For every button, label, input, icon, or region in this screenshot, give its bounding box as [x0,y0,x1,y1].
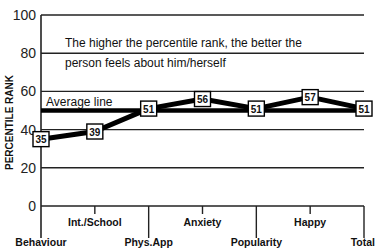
data-point-marker: 57 [302,90,318,105]
y-tick-0: 0 [28,198,36,214]
svg-text:56: 56 [197,94,209,105]
percentile-rank-chart: 020406080100 BehaviourInt./SchoolPhys.Ap… [0,0,378,251]
x-tick-label: Happy [294,216,326,228]
average-line-label: Average line [46,95,113,109]
y-tick-20: 20 [20,160,36,176]
x-tick-label: Popularity [231,236,283,248]
x-tick-label: Total [351,236,375,248]
y-tick-100: 100 [13,7,37,23]
x-tick-label: Anxiety [184,216,222,228]
svg-text:51: 51 [358,104,370,115]
data-point-marker: 51 [356,101,372,116]
x-tick-label: Behaviour [15,236,66,248]
svg-text:51: 51 [143,104,155,115]
y-tick-labels: 020406080100 [13,7,37,214]
data-point-marker: 56 [195,92,211,107]
x-tick-labels: BehaviourInt./SchoolPhys.AppAnxietyPopul… [15,206,375,248]
svg-text:51: 51 [251,104,263,115]
data-point-marker: 51 [248,101,264,116]
data-point-marker: 39 [87,124,103,139]
annotation-line-1: The higher the percentile rank, the bett… [65,36,302,50]
y-tick-60: 60 [20,83,36,99]
svg-text:35: 35 [35,134,47,145]
annotation-line-2: person feels about him/herself [65,56,226,70]
y-tick-80: 80 [20,45,36,61]
svg-text:57: 57 [305,92,317,103]
x-tick-label: Phys.App [124,236,172,248]
data-point-marker: 35 [33,132,49,147]
svg-text:39: 39 [89,127,101,138]
y-axis-label: PERCENTILE RANK [4,74,15,170]
x-tick-label: Int./School [68,216,122,228]
data-point-marker: 51 [141,101,157,116]
